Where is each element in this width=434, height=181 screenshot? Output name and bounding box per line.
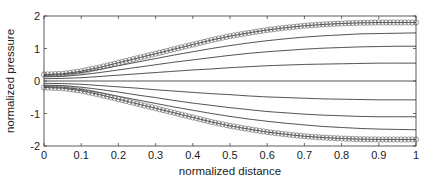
x-axis-label: normalized distance bbox=[179, 165, 281, 177]
series-line bbox=[44, 63, 416, 79]
y-tick-label: 2 bbox=[34, 10, 40, 22]
x-tick-label: 1 bbox=[413, 149, 419, 161]
series-line bbox=[44, 85, 416, 117]
x-tick-label: 0.3 bbox=[148, 149, 163, 161]
series-line bbox=[44, 46, 416, 77]
series-line bbox=[44, 88, 416, 140]
y-tick-label: 1 bbox=[34, 43, 40, 55]
y-tick-label: 0 bbox=[34, 75, 40, 87]
y-tick-label: -2 bbox=[30, 140, 40, 152]
x-tick-label: 0.5 bbox=[222, 149, 237, 161]
series-line bbox=[44, 23, 416, 75]
y-tick-label: -1 bbox=[30, 108, 40, 120]
x-tick-label: 0.9 bbox=[371, 149, 386, 161]
x-tick-label: 0.7 bbox=[297, 149, 312, 161]
plot-series bbox=[44, 23, 416, 140]
x-tick-label: 0.2 bbox=[111, 149, 126, 161]
series-line bbox=[44, 33, 416, 76]
pressure-distance-chart: 00.10.20.30.40.50.60.70.80.91 -2-1012 no… bbox=[0, 0, 434, 181]
x-tick-label: 0.6 bbox=[260, 149, 275, 161]
y-axis-label: normalized pressure bbox=[4, 29, 16, 133]
x-tick-label: 0.1 bbox=[74, 149, 89, 161]
x-tick-label: 0.4 bbox=[185, 149, 200, 161]
x-tick-label: 0.8 bbox=[334, 149, 349, 161]
x-tick-label: 0 bbox=[41, 149, 47, 161]
